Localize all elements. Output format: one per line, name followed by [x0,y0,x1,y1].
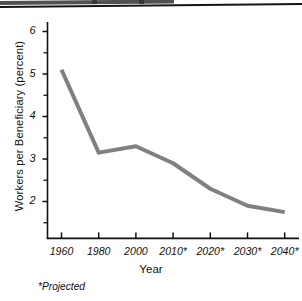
x-tick-label-1980: 1980 [79,245,119,257]
data-series-line [62,70,285,212]
x-tick-label-2010-projected: 2010* [153,245,193,257]
y-tick-label-2: 2 [14,194,36,206]
x-axis-ticks [62,232,285,238]
x-axis-title: Year [0,262,302,275]
x-tick-label-2030-projected: 2030* [228,245,268,257]
x-tick-label-2040-projected: 2040* [265,245,302,257]
x-tick-label-1960: 1960 [42,245,82,257]
x-tick-label-2000: 2000 [116,245,156,257]
y-tick-label-3: 3 [14,152,36,164]
line-chart: Workers per Beneficiary (percent) 23456 … [0,0,302,301]
y-axis-title: Workers per Beneficiary (percent) [13,11,25,241]
y-tick-label-6: 6 [14,24,36,36]
y-tick-label-5: 5 [14,67,36,79]
y-tick-label-4: 4 [14,109,36,121]
chart-footnote: *Projected [38,281,85,292]
chart-page: Workers per Beneficiary (percent) 23456 … [0,0,302,301]
x-tick-label-2020-projected: 2020* [190,245,230,257]
